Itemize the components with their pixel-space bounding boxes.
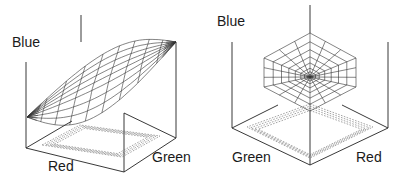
left-surface-mesh	[27, 39, 176, 125]
right-figure-rgb-cube: Blue Green Red	[217, 5, 388, 165]
right-red-axis-label: Red	[356, 149, 382, 165]
right-green-axis-label: Green	[232, 149, 271, 165]
left-floor-projection	[42, 125, 160, 157]
right-blue-axis-label: Blue	[217, 13, 245, 29]
right-hexagon-mesh	[264, 33, 356, 111]
left-green-axis-label: Green	[152, 149, 191, 165]
left-red-axis-label: Red	[48, 158, 74, 174]
left-figure-rgb-cube: Blue Red Green	[12, 15, 191, 174]
diagram-canvas: Blue Red Green Blue Green Red	[0, 0, 400, 183]
left-blue-axis-label: Blue	[12, 34, 40, 50]
